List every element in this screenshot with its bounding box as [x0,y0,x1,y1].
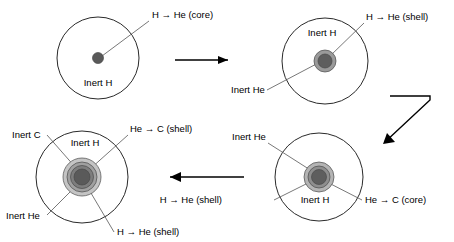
flow-arrow-panel3-to-panel4-head-icon [170,172,181,182]
diagram-canvas: H → He (core)Inert HH → He (shell)Inert … [0,0,454,242]
helium-core-burning-star-shell-reaction-label: H → He (shell) [160,194,222,205]
hydrogen-shell-burning-star-inert-he-label: Inert He [231,84,265,95]
flow-arrow-panel3-to-panel4 [170,172,244,182]
flow-arrow-panel2-to-panel3 [383,96,430,144]
double-shell-burning-star-inert-c-label: Inert C [12,129,41,140]
helium-core-burning-star-zone-core [312,170,327,185]
double-shell-burning-star-h-he-shell-label: H → He (shell) [117,226,179,237]
double-shell-burning-star-zone-core [74,169,90,185]
hydrogen-shell-burning-star-inert-h-label: Inert H [308,27,337,38]
flow-arrow-panel1-to-panel2-head-icon [218,56,228,64]
flow-arrow-panel2-to-panel3-shaft [385,96,430,142]
helium-core-burning-star [268,133,363,221]
hydrogen-shell-burning-star-shell-reaction-label: H → He (shell) [366,11,428,22]
hydrogen-shell-burning-star-zone-core [318,54,332,68]
flow-arrow-panel1-to-panel2 [175,56,228,64]
double-shell-burning-star-inert-h-label: Inert H [71,137,100,148]
double-shell-burning-star-inert-he-label: Inert He [6,210,40,221]
main-sequence-star-core-reaction-label: H → He (core) [152,9,213,20]
main-sequence-star-zone-core [93,53,104,64]
double-shell-burning-star-he-c-shell-label: He → C (shell) [130,123,192,134]
main-sequence-star-inert-h-label: Inert H [84,77,113,88]
stellar-evolution-diagram: H → He (core)Inert HH → He (shell)Inert … [0,0,454,242]
helium-core-burning-star-core-reaction-label: He → C (core) [365,194,426,205]
helium-core-burning-star-inert-he-label: Inert He [232,131,266,142]
helium-core-burning-star-inert-h-label: Inert H [301,194,330,205]
